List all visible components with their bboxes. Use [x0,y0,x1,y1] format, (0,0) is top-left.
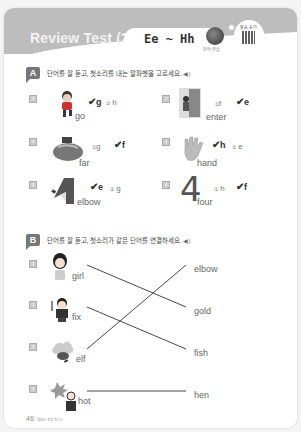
line-girl-gold [87,265,186,307]
page-number: 46 [26,415,34,422]
footer-text: 영원드 초등 파닉스 [37,417,63,422]
worksheet-page: Review Test (2) Ee ~ Hh 단어 연습 발음 듣기 A 단어… [4,8,297,428]
line-elf-elbow [87,265,186,349]
connection-lines [4,8,297,428]
line-fix-fish [87,307,186,349]
